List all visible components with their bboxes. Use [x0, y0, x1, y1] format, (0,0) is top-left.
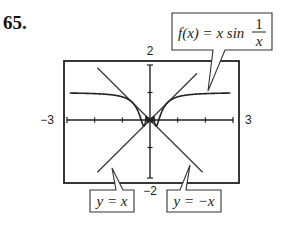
y-equals-neg-x-label: y = −x — [171, 193, 214, 209]
f-label-numerator: 1 — [255, 16, 263, 32]
f-callout: f(x) = x sin 1 x — [172, 13, 272, 91]
y-max-label: 2 — [147, 44, 154, 58]
graph-figure: −3 3 2 −2 f(x) = x sin 1 x y = x y = −x — [0, 0, 290, 228]
x-max-label: 3 — [245, 113, 252, 127]
y-min-label: −2 — [143, 184, 157, 198]
f-label-denominator: x — [255, 33, 263, 49]
curve-f-x — [70, 93, 150, 126]
curve-f-x — [150, 93, 230, 126]
x-min-label: −3 — [40, 113, 54, 127]
y-equals-x-callout: y = x — [90, 168, 134, 212]
f-label: f(x) = x sin — [178, 25, 244, 42]
y-equals-x-label: y = x — [95, 193, 128, 209]
y-equals-neg-x-callout: y = −x — [167, 165, 221, 212]
